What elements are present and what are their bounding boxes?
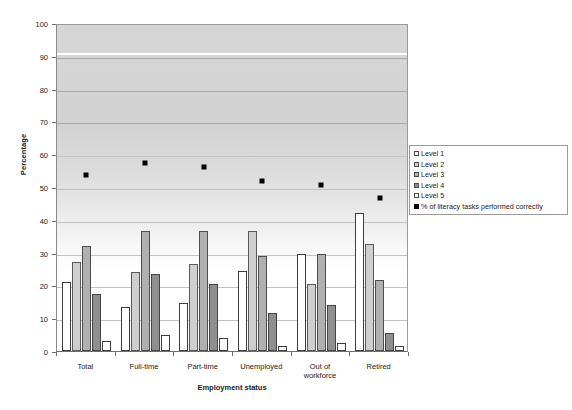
legend-item-label: Level 1 [421, 149, 444, 158]
legend-color-swatch [414, 183, 419, 188]
scatter-marker [201, 164, 206, 169]
legend-item[interactable]: Level 5 [414, 191, 563, 201]
bar [209, 284, 218, 351]
y-tick-label: 0 [14, 348, 48, 357]
x-tick-mark [349, 352, 350, 356]
y-tick-label: 40 [14, 217, 48, 226]
y-tick-label: 100 [14, 20, 48, 29]
bar-group [179, 231, 229, 351]
scatter-marker [84, 172, 89, 177]
highlight-band [57, 53, 407, 55]
legend-item-label: Level 3 [421, 170, 444, 179]
gridline [57, 189, 407, 190]
legend-item-label: Level 5 [421, 191, 444, 200]
bar [72, 262, 81, 351]
x-axis-title: Employment status [56, 383, 408, 392]
y-tick-label: 90 [14, 53, 48, 62]
y-tick-label: 30 [14, 250, 48, 259]
bar [297, 254, 306, 351]
bar [395, 346, 404, 351]
bar [62, 282, 71, 351]
y-tick-label: 80 [14, 86, 48, 95]
bar [248, 231, 257, 351]
bar-group [237, 231, 287, 351]
x-tick-mark [115, 352, 116, 356]
bar [199, 231, 208, 351]
bar [219, 338, 228, 351]
legend-item-label: Level 2 [421, 160, 444, 169]
legend-item-label: % of literacy tasks performed correctly [421, 202, 543, 211]
bar [327, 305, 336, 351]
bar [189, 264, 198, 351]
x-tick-mark [232, 352, 233, 356]
legend-color-swatch [414, 172, 419, 177]
scatter-marker [319, 182, 324, 187]
bar-group [61, 246, 111, 351]
gridline [57, 123, 407, 124]
bar [337, 343, 346, 351]
legend-item[interactable]: Level 1 [414, 149, 563, 159]
plot-area [56, 24, 408, 352]
bar [258, 256, 267, 351]
legend-color-swatch [414, 151, 419, 156]
scatter-marker [377, 195, 382, 200]
bar-group [355, 213, 405, 351]
y-tick-label: 10 [14, 315, 48, 324]
x-tick-mark [291, 352, 292, 356]
bar [179, 303, 188, 351]
scatter-marker [260, 179, 265, 184]
bar-group [120, 231, 170, 351]
chart-container: Percentage 0102030405060708090100 TotalF… [0, 0, 572, 410]
bar [161, 335, 170, 351]
x-tick-label-line: workforce [285, 371, 355, 380]
chart-legend: Level 1Level 2Level 3Level 4Level 5% of … [409, 145, 568, 215]
bar [151, 274, 160, 351]
legend-color-swatch [414, 193, 419, 198]
x-tick-mark [173, 352, 174, 356]
bar [131, 272, 140, 351]
y-tick-label: 60 [14, 151, 48, 160]
y-tick-label: 70 [14, 118, 48, 127]
legend-item[interactable]: Level 2 [414, 160, 563, 170]
bar [121, 307, 130, 351]
x-tick-label-line: Retired [344, 362, 414, 371]
scatter-marker [143, 161, 148, 166]
legend-item[interactable]: Level 4 [414, 181, 563, 191]
bar [317, 254, 326, 351]
bar [82, 246, 91, 351]
x-tick-mark [408, 352, 409, 356]
legend-color-swatch [414, 162, 419, 167]
y-tick-label: 20 [14, 282, 48, 291]
legend-item[interactable]: % of literacy tasks performed correctly [414, 202, 563, 212]
legend-item[interactable]: Level 3 [414, 170, 563, 180]
gridline [57, 91, 407, 92]
legend-marker-swatch [414, 204, 419, 209]
bar [307, 284, 316, 351]
bar [365, 244, 374, 351]
gridline [57, 58, 407, 59]
bar-group [296, 254, 346, 351]
bar [141, 231, 150, 351]
bar [238, 271, 247, 351]
bar [268, 313, 277, 351]
bar [355, 213, 364, 351]
gridline [57, 156, 407, 157]
x-tick-label: Retired [344, 362, 414, 371]
x-tick-mark [56, 352, 57, 356]
bar [278, 346, 287, 351]
y-tick-label: 50 [14, 184, 48, 193]
bar [92, 294, 101, 351]
bar [102, 341, 111, 351]
bar [375, 280, 384, 351]
bar [385, 333, 394, 351]
legend-item-label: Level 4 [421, 181, 444, 190]
